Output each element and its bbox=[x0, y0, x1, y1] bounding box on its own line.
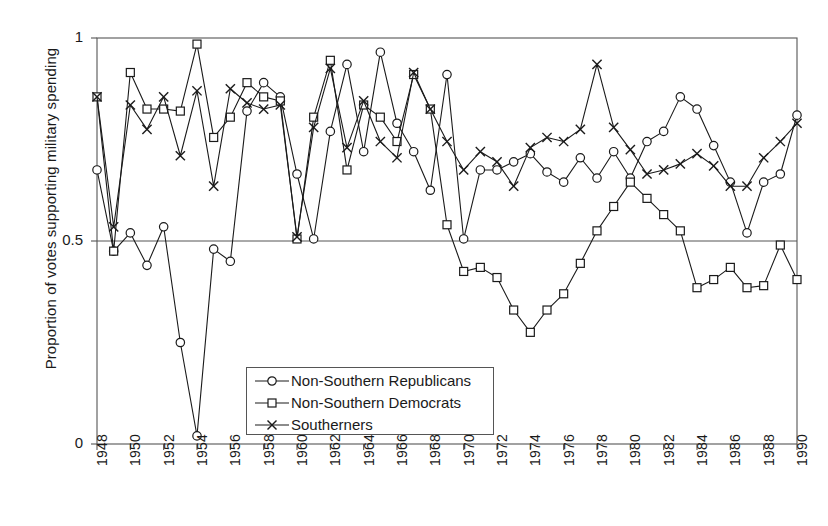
x-tick-label: 1968 bbox=[427, 434, 443, 466]
data-point bbox=[776, 241, 784, 249]
data-point bbox=[709, 141, 717, 149]
data-point bbox=[143, 105, 151, 113]
data-point bbox=[243, 79, 251, 87]
x-tick-label: 1978 bbox=[594, 434, 610, 466]
data-point bbox=[243, 107, 251, 115]
x-tick-label: 1958 bbox=[261, 434, 277, 466]
data-point bbox=[176, 338, 184, 346]
y-tick-label: 1 bbox=[35, 28, 83, 45]
legend-label-republicans: Non-Southern Republicans bbox=[291, 371, 471, 391]
y-tick-label: 0.5 bbox=[35, 231, 83, 248]
data-point bbox=[409, 147, 417, 155]
data-point bbox=[309, 235, 317, 243]
data-point bbox=[110, 247, 118, 255]
data-point bbox=[143, 261, 151, 269]
chart-figure: Proportion of votes supporting military … bbox=[0, 0, 828, 526]
data-point bbox=[643, 137, 651, 145]
x-tick-label: 1966 bbox=[394, 434, 410, 466]
data-point bbox=[559, 178, 567, 186]
x-tick-label: 1954 bbox=[194, 434, 210, 466]
data-point bbox=[376, 48, 384, 56]
x-tick-label: 1974 bbox=[527, 434, 543, 466]
x-tick-label: 1948 bbox=[94, 434, 110, 466]
x-tick-label: 1950 bbox=[127, 434, 143, 466]
x-tick-label: 1972 bbox=[494, 434, 510, 466]
data-point bbox=[659, 127, 667, 135]
data-point bbox=[276, 97, 284, 105]
data-point bbox=[493, 274, 501, 282]
data-point bbox=[343, 60, 351, 68]
circle-marker-icon bbox=[253, 371, 291, 391]
data-point bbox=[693, 105, 701, 113]
data-point bbox=[259, 78, 267, 86]
data-point bbox=[676, 93, 684, 101]
data-point bbox=[226, 113, 234, 121]
data-point bbox=[343, 166, 351, 174]
data-point bbox=[459, 235, 467, 243]
y-tick-label: 0 bbox=[35, 434, 83, 451]
data-point bbox=[576, 154, 584, 162]
data-point bbox=[476, 166, 484, 174]
data-point bbox=[393, 119, 401, 127]
x-tick-label: 1990 bbox=[794, 434, 810, 466]
data-point bbox=[760, 282, 768, 290]
data-point bbox=[226, 257, 234, 265]
data-point bbox=[693, 284, 701, 292]
x-tick-label: 1952 bbox=[161, 434, 177, 466]
data-point bbox=[159, 223, 167, 231]
data-point bbox=[510, 306, 518, 314]
y-axis-label: Proportion of votes supporting military … bbox=[42, 0, 59, 439]
data-point bbox=[759, 178, 767, 186]
data-point bbox=[593, 227, 601, 235]
data-point bbox=[359, 147, 367, 155]
x-tick-label: 1976 bbox=[561, 434, 577, 466]
data-point bbox=[126, 229, 134, 237]
x-tick-label: 1988 bbox=[761, 434, 777, 466]
data-point bbox=[593, 174, 601, 182]
data-point bbox=[710, 276, 718, 284]
data-point bbox=[209, 245, 217, 253]
data-point bbox=[676, 227, 684, 235]
data-point bbox=[726, 263, 734, 271]
data-point bbox=[126, 69, 134, 77]
data-point bbox=[643, 194, 651, 202]
data-point bbox=[609, 147, 617, 155]
legend-label-southerners: Southerners bbox=[291, 415, 373, 435]
data-point bbox=[576, 259, 584, 267]
legend-item-democrats: Non-Southern Democrats bbox=[253, 392, 461, 414]
data-point bbox=[426, 186, 434, 194]
data-point bbox=[526, 328, 534, 336]
data-point bbox=[376, 113, 384, 121]
x-tick-label: 1970 bbox=[461, 434, 477, 466]
x-marker-icon bbox=[253, 415, 291, 435]
x-tick-label: 1964 bbox=[361, 434, 377, 466]
data-point bbox=[793, 276, 801, 284]
data-point bbox=[776, 170, 784, 178]
series-southerners bbox=[92, 60, 801, 242]
data-point bbox=[610, 202, 618, 210]
data-point bbox=[93, 166, 101, 174]
data-point bbox=[443, 70, 451, 78]
data-point bbox=[326, 56, 334, 64]
data-point bbox=[560, 290, 568, 298]
data-point bbox=[326, 127, 334, 135]
legend: Non-Southern Republicans Non-Southern De… bbox=[246, 367, 494, 435]
data-point bbox=[460, 267, 468, 275]
x-tick-label: 1962 bbox=[327, 434, 343, 466]
data-point bbox=[260, 93, 268, 101]
x-tick-label: 1984 bbox=[694, 434, 710, 466]
data-point bbox=[543, 168, 551, 176]
x-tick-label: 1982 bbox=[661, 434, 677, 466]
x-tick-label: 1956 bbox=[227, 434, 243, 466]
data-point bbox=[443, 221, 451, 229]
data-point bbox=[743, 229, 751, 237]
data-point bbox=[626, 178, 634, 186]
data-point bbox=[743, 284, 751, 292]
data-point bbox=[193, 40, 201, 48]
legend-item-southerners: Southerners bbox=[253, 414, 373, 436]
x-tick-label: 1960 bbox=[294, 434, 310, 466]
square-marker-icon bbox=[253, 393, 291, 413]
data-point bbox=[793, 111, 801, 119]
legend-item-republicans: Non-Southern Republicans bbox=[253, 370, 471, 392]
series-democrats bbox=[93, 40, 801, 336]
